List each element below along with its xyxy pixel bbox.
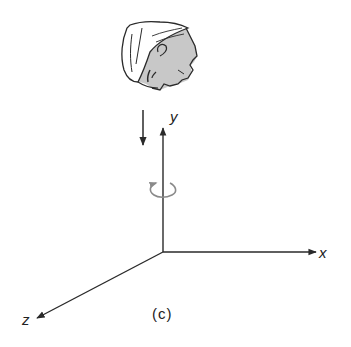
z-axis <box>37 252 163 318</box>
head-illustration <box>122 22 197 90</box>
z-axis-label: z <box>22 312 30 327</box>
figure-caption: (c) <box>152 306 173 321</box>
y-axis-label: y <box>170 109 178 124</box>
diagram-canvas <box>0 0 351 347</box>
x-axis-label: x <box>319 245 327 260</box>
